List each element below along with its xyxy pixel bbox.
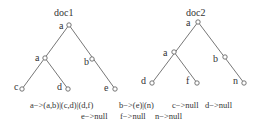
caption-d: d−>null xyxy=(205,100,232,110)
doc1-tree: doc1 a a b c d e xyxy=(14,7,117,93)
doc2-d-label: d xyxy=(141,75,146,86)
doc1-d-label: d xyxy=(57,81,62,92)
doc2-n-node xyxy=(242,81,246,85)
doc1-a-node xyxy=(43,56,47,60)
doc1-root-node xyxy=(67,23,71,27)
doc2-tree: doc2 a a b d f n xyxy=(141,7,246,86)
doc1-a-label: a xyxy=(35,52,40,63)
doc1-title: doc1 xyxy=(54,7,73,18)
doc1-e-label: e xyxy=(104,82,109,93)
doc2-a-node xyxy=(172,50,176,54)
caption-a: a−>(a,b)|(c,d)|(d,f) xyxy=(30,100,93,110)
doc2-d-node xyxy=(150,81,154,85)
doc2-root-label: a xyxy=(186,17,191,28)
caption-n: n−>null xyxy=(155,111,182,121)
doc2-f-node xyxy=(195,81,199,85)
doc1-b-label: b xyxy=(84,56,89,67)
doc2-f-label: f xyxy=(186,75,190,86)
doc1-d-node xyxy=(66,87,70,91)
caption-f: f−>null xyxy=(120,111,146,121)
doc2-n-label: n xyxy=(233,75,238,86)
doc2-b-node xyxy=(223,55,227,59)
doc1-c-node xyxy=(20,87,24,91)
doc1-root-label: a xyxy=(59,20,64,31)
doc1-e-node xyxy=(113,87,117,91)
caption-c: c−>null xyxy=(172,100,199,110)
caption-b: b−>(e)|(n) xyxy=(119,100,154,110)
doc2-a-label: a xyxy=(163,47,168,58)
doc1-b-node xyxy=(90,57,94,61)
doc2-b-label: b xyxy=(213,53,218,64)
caption-e: e−>null xyxy=(81,111,108,121)
doc1-c-label: c xyxy=(14,81,19,92)
doc2-root-node xyxy=(196,20,200,24)
